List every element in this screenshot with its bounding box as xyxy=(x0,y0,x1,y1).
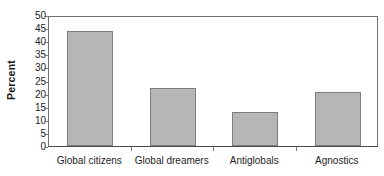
bars-layer xyxy=(49,17,377,146)
x-tick-label: Global dreamers xyxy=(131,155,214,166)
y-axis-labels: 05101520253035404550 xyxy=(18,0,48,176)
bar xyxy=(150,88,196,146)
bar-chart: Percent 05101520253035404550 Global citi… xyxy=(0,0,384,176)
bar xyxy=(232,112,278,146)
x-tick-mark xyxy=(131,147,132,151)
plot-area xyxy=(48,16,378,147)
x-tick-label: Antiglobals xyxy=(213,155,296,166)
y-axis-title-label: Percent xyxy=(5,60,17,100)
x-tick-label: Agnostics xyxy=(296,155,379,166)
x-tick-label: Global citizens xyxy=(48,155,131,166)
x-tick-mark xyxy=(213,147,214,151)
bar xyxy=(315,92,361,146)
bar xyxy=(67,31,113,146)
x-tick-mark xyxy=(296,147,297,151)
y-tick-mark xyxy=(44,147,48,148)
